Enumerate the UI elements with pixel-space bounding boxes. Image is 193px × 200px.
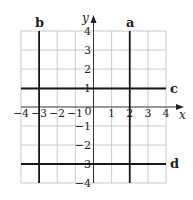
y-axis-arrow-icon (91, 15, 97, 23)
line-a: a (126, 15, 135, 183)
svg-text:−2: −2 (49, 107, 65, 120)
svg-text:4: 4 (84, 25, 91, 38)
svg-text:−2: −2 (75, 139, 91, 152)
svg-text:2: 2 (84, 63, 91, 76)
svg-text:1: 1 (108, 107, 115, 120)
line-d: d (21, 156, 179, 171)
y-axis-label: y (81, 11, 89, 25)
line-d-label: d (170, 156, 179, 171)
line-c-label: c (170, 81, 178, 96)
svg-text:3: 3 (144, 107, 151, 120)
line-b-label: b (35, 15, 44, 30)
line-b: b (35, 15, 44, 183)
svg-text:−4: −4 (13, 107, 29, 120)
line-a-label: a (126, 15, 135, 30)
x-tick-labels: −4 −3 −2 −1 0 1 2 3 4 (13, 105, 170, 122)
svg-text:−1: −1 (67, 107, 83, 120)
line-c: c (21, 81, 178, 96)
svg-text:3: 3 (84, 44, 91, 57)
svg-text:−1: −1 (75, 120, 91, 133)
svg-text:0: 0 (85, 105, 92, 118)
x-axis-label: x (179, 108, 186, 122)
svg-text:4: 4 (163, 107, 170, 120)
coordinate-grid: x y −4 −3 −2 −1 0 1 2 3 4 4 3 2 1 −1 −2 … (0, 0, 193, 200)
svg-text:−4: −4 (75, 177, 91, 190)
